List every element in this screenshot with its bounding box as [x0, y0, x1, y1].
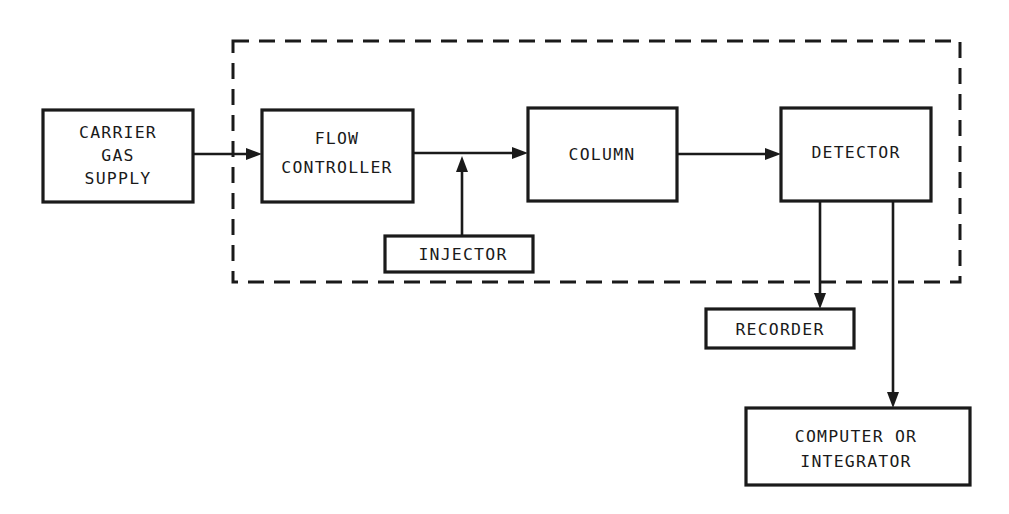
arrowhead-icon — [456, 156, 468, 172]
block-label: INTEGRATOR — [800, 452, 911, 471]
block-label: CONTROLLER — [281, 158, 392, 177]
block-flow-controller: FLOW CONTROLLER — [262, 110, 413, 202]
block-label: RECORDER — [735, 320, 824, 339]
block-label: COLUMN — [569, 145, 636, 164]
gc-block-diagram: CARRIER GAS SUPPLY FLOW CONTROLLER INJEC… — [0, 0, 1009, 514]
block-detector: DETECTOR — [781, 108, 931, 201]
arrowhead-icon — [246, 148, 262, 160]
arrowhead-icon — [887, 392, 899, 408]
arrowhead-icon — [814, 293, 826, 309]
block-injector: INJECTOR — [385, 236, 533, 272]
block-label: FLOW — [315, 129, 360, 148]
arrowhead-icon — [765, 148, 781, 160]
block-label: INJECTOR — [418, 245, 507, 264]
block-label: DETECTOR — [811, 143, 900, 162]
block-label: GAS — [101, 146, 134, 165]
arrowhead-icon — [512, 147, 528, 159]
block-recorder: RECORDER — [706, 309, 854, 348]
block-computer-or-integrator: COMPUTER OR INTEGRATOR — [746, 408, 970, 485]
block-label: COMPUTER OR — [795, 427, 917, 446]
block-carrier-gas-supply: CARRIER GAS SUPPLY — [43, 110, 193, 202]
block-label: SUPPLY — [85, 169, 152, 188]
block-column: COLUMN — [528, 108, 677, 201]
block-label: CARRIER — [79, 123, 157, 142]
